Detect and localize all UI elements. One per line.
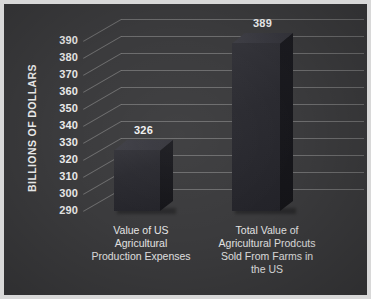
y-tick-label-340: 340: [44, 120, 78, 131]
category-label-2: Total Value ofAgricultural ProdcutsSold …: [197, 224, 337, 276]
bar-value-label-2: 389: [222, 17, 303, 29]
y-tick-label-360: 360: [44, 86, 78, 97]
y-tick-label-330: 330: [44, 137, 78, 148]
y-tick-label-290: 290: [44, 205, 78, 216]
category-label-line: the US: [197, 263, 337, 276]
y-tick-label-310: 310: [44, 171, 78, 182]
y-tick-label-380: 380: [44, 52, 78, 63]
bar-2: [232, 33, 293, 211]
category-label-line: Agricultural: [82, 237, 200, 250]
y-axis-ticks: 390380370360350340330320310300290: [20, 4, 78, 295]
category-label-line: Agricultural Prodcuts: [197, 237, 337, 250]
bar-front-face-2: [232, 43, 280, 211]
chart-frame: BILLIONS OF DOLLARS 39038037036035034033…: [0, 0, 371, 299]
category-label-1: Value of USAgriculturalProduction Expens…: [82, 224, 200, 263]
category-label-line: Sold From Farms in: [197, 250, 337, 263]
category-label-line: Total Value of: [197, 224, 337, 237]
bar-value-label-1: 326: [104, 124, 183, 136]
bar-side-face-2: [280, 33, 293, 211]
y-tick-label-370: 370: [44, 69, 78, 80]
chart-plot-area: BILLIONS OF DOLLARS 39038037036035034033…: [4, 4, 367, 295]
bar-side-face-1: [160, 140, 173, 211]
category-label-line: Production Expenses: [82, 250, 200, 263]
y-tick-label-320: 320: [44, 154, 78, 165]
y-tick-label-350: 350: [44, 103, 78, 114]
bar-1: [114, 140, 173, 211]
y-tick-label-300: 300: [44, 188, 78, 199]
bar-front-face-1: [114, 150, 160, 211]
y-tick-label-390: 390: [44, 35, 78, 46]
category-label-line: Value of US: [82, 224, 200, 237]
